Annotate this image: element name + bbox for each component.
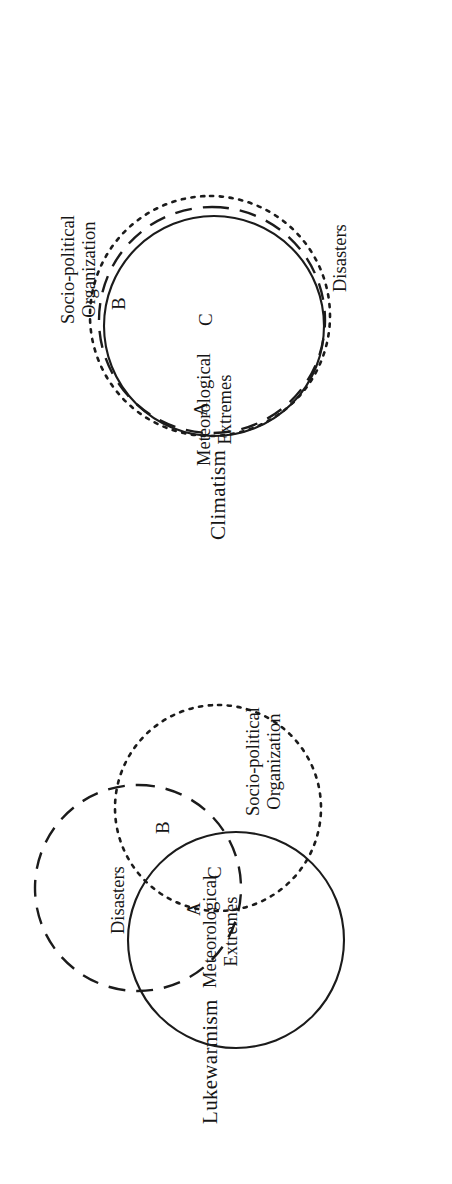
region-tag-c-climatism: C — [195, 313, 217, 326]
region-tag-c-lukewarmism: C — [204, 866, 226, 879]
panel-climatism: Climatism Meteorological Extremes Disast… — [0, 0, 452, 592]
label-line-2: Extremes — [215, 353, 236, 466]
label-meteorological-extremes-lukewarmism: Meteorological Extremes — [200, 875, 242, 988]
panel-lukewarmism: Lukewarmism Meteorological Extremes Disa… — [0, 592, 452, 1184]
label-line-1: Socio-political — [58, 215, 79, 324]
label-socio-political-organization-climatism: Socio-political Organization — [58, 215, 100, 324]
label-disasters-lukewarmism: Disasters — [108, 866, 129, 934]
region-tag-a-lukewarmism: A — [183, 902, 205, 916]
region-tag-b-climatism: B — [108, 297, 130, 310]
label-line-2: Extremes — [221, 875, 242, 988]
label-line-2: Organization — [264, 707, 285, 816]
label-disasters-climatism: Disasters — [330, 224, 351, 292]
label-line-1: Meteorological — [200, 875, 221, 988]
region-tag-a-climatism: A — [190, 402, 212, 416]
label-socio-political-organization-lukewarmism: Socio-political Organization — [243, 707, 285, 816]
region-tag-b-lukewarmism: B — [152, 821, 174, 834]
figure-canvas: Lukewarmism Meteorological Extremes Disa… — [0, 0, 452, 1184]
label-line-1: Socio-political — [243, 707, 264, 816]
label-line-2: Organization — [79, 215, 100, 324]
